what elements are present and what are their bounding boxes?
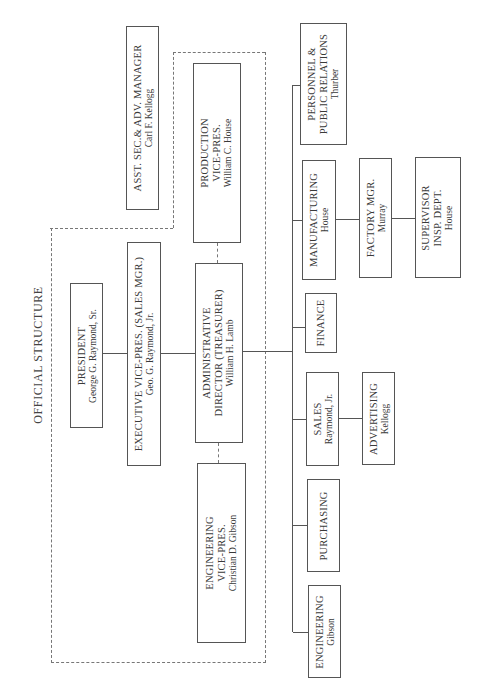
box-personnel: PERSONNEL & PUBLIC RELATIONS Thurber: [300, 23, 347, 145]
box-manufacturing-title: MANUFACTURING: [308, 173, 320, 267]
connector-execvp-admin: [160, 353, 195, 354]
box-sales: SALES Raymond, Jr.: [306, 372, 339, 466]
boundary-step: [173, 52, 174, 228]
box-sales-title: SALES: [311, 394, 323, 444]
box-finance-title: FINANCE: [315, 300, 327, 347]
box-manufacturing-name: House: [320, 173, 331, 267]
connector-advertising: [339, 418, 362, 419]
connector-purchasing: [293, 525, 307, 526]
box-admin-director-title2: DIRECTOR (TREASURER): [214, 289, 226, 416]
box-asst-sec-title: ASST. SEC.& ADV. MANAGER: [131, 45, 143, 192]
connector-factory: [336, 219, 359, 220]
connector-sales: [293, 419, 306, 420]
connector-finance: [292, 327, 305, 328]
box-manufacturing: MANUFACTURING House: [302, 160, 336, 280]
box-exec-vp: EXECUTIVE VICE-PRES. (SALES MGR.) Geo. G…: [127, 242, 161, 466]
box-factory-mgr: FACTORY MGR. Murray: [359, 158, 392, 278]
box-purchasing: PURCHASING: [307, 479, 340, 572]
box-advertising-name: Kellogg: [379, 382, 390, 454]
boundary-top-right: [173, 52, 265, 53]
connector-manufacturing: [292, 220, 302, 221]
box-engineering-vp: ENGINEERING VICE-PRES. Christian D. Gibs…: [197, 463, 246, 643]
box-supervisor-name: House: [445, 185, 456, 250]
box-engineering-name: Gibson: [325, 595, 336, 668]
box-production-vp: PRODUCTION VICE-PRES. William C. House: [193, 63, 241, 243]
box-supervisor-title2: INSP. DEPT.: [433, 185, 445, 250]
box-advertising: ADVERTISING Kellogg: [362, 372, 395, 465]
box-personnel-title: PERSONNEL &: [306, 34, 318, 134]
box-production-vp-name: William C. House: [224, 118, 235, 188]
box-president: PRESIDENT George G. Raymond, Sr.: [70, 283, 103, 428]
box-exec-vp-name: Geo. G. Raymond, Jr.: [145, 257, 156, 452]
box-factory-mgr-title: FACTORY MGR.: [364, 179, 376, 258]
connector-supervisor: [392, 218, 415, 219]
box-admin-director: ADMINISTRATIVE DIRECTOR (TREASURER) Will…: [195, 263, 243, 443]
connector-admin-production: [217, 243, 218, 263]
box-production-vp-title: PRODUCTION: [199, 118, 211, 188]
box-admin-director-title: ADMINISTRATIVE: [201, 289, 213, 416]
box-engineering-vp-name: Christian D. Gibson: [228, 515, 239, 591]
box-asst-sec: ASST. SEC.& ADV. MANAGER Carl F. Kellogg: [126, 26, 159, 210]
box-production-vp-title2: VICE-PRES.: [212, 118, 224, 188]
boundary-left: [51, 228, 52, 663]
box-president-name: George G. Raymond, Sr.: [87, 309, 98, 403]
box-sales-name: Raymond, Jr.: [323, 394, 334, 444]
chart-title: OFFICIAL STRUCTURE: [31, 286, 46, 423]
boundary-right: [265, 52, 266, 663]
box-engineering-vp-title: ENGINEERING: [204, 515, 216, 591]
box-supervisor: SUPERVISOR INSP. DEPT. House: [415, 157, 461, 278]
box-personnel-title2: PUBLIC RELATIONS: [318, 34, 330, 134]
boundary-bottom: [51, 662, 266, 663]
box-finance: FINANCE: [305, 293, 337, 353]
box-engineering-title: ENGINEERING: [313, 595, 325, 668]
box-asst-sec-name: Carl F. Kellogg: [143, 45, 154, 192]
connector-admin-engineering: [218, 443, 219, 463]
trunk-line: [292, 85, 293, 632]
box-supervisor-title: SUPERVISOR: [420, 185, 432, 250]
box-factory-mgr-name: Murray: [376, 179, 387, 258]
box-purchasing-title: PURCHASING: [317, 491, 329, 560]
box-engineering: ENGINEERING Gibson: [308, 585, 341, 678]
boundary-top-left: [50, 228, 173, 229]
box-advertising-title: ADVERTISING: [367, 382, 379, 454]
box-admin-director-name: William H. Lamb: [226, 289, 237, 416]
box-personnel-name: Thurber: [330, 34, 341, 134]
connector-admin-trunk: [243, 351, 293, 352]
box-engineering-vp-title2: VICE-PRES.: [216, 515, 228, 591]
connector-engineering: [293, 632, 308, 633]
box-president-title: PRESIDENT: [75, 309, 87, 403]
connector-president-execvp: [102, 353, 127, 354]
box-exec-vp-title: EXECUTIVE VICE-PRES. (SALES MGR.): [133, 257, 145, 452]
